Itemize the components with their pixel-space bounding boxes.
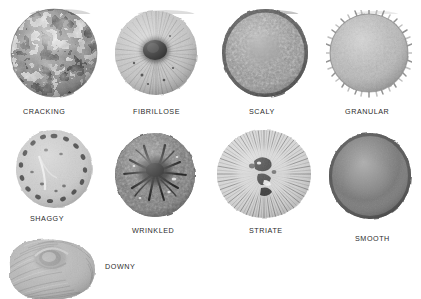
- specimen-granular: [326, 10, 412, 98]
- specimen-wrinkled: [112, 130, 198, 220]
- specimen-smooth: [326, 130, 414, 222]
- cropped-top-row-artifact-2: [136, 0, 196, 4]
- caption-shaggy: SHAGGY: [30, 214, 64, 223]
- caption-granular: GRANULAR: [345, 107, 389, 116]
- cropped-top-row-artifact-4: [352, 0, 400, 3]
- caption-striate: STRIATE: [249, 226, 283, 235]
- cropped-top-row-artifact: [28, 0, 92, 5]
- specimen-downy: [2, 236, 100, 299]
- specimen-striate: [214, 128, 314, 220]
- caption-wrinkled: WRINKLED: [132, 226, 174, 235]
- specimen-cracking: [8, 6, 101, 102]
- mushroom-cap-texture-plate: CRACKING: [0, 0, 421, 299]
- caption-downy: DOWNY: [105, 262, 135, 271]
- specimen-scaly: [219, 6, 311, 102]
- caption-smooth: SMOOTH: [355, 234, 390, 243]
- specimen-shaggy: [12, 128, 96, 210]
- caption-cracking: CRACKING: [23, 107, 65, 116]
- caption-scaly: SCALY: [249, 107, 275, 116]
- specimen-fibrillose: [112, 8, 200, 100]
- caption-fibrillose: FIBRILLOSE: [133, 107, 180, 116]
- cropped-top-row-artifact-3: [244, 0, 300, 4]
